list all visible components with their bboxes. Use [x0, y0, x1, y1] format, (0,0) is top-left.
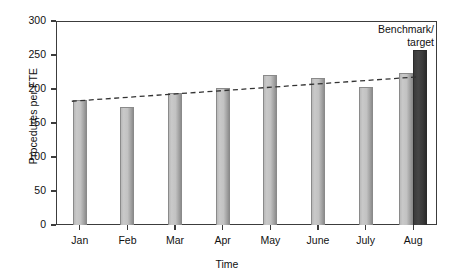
x-axis-tick-mark	[222, 225, 223, 230]
bar-aug	[399, 73, 413, 225]
bar-july	[359, 87, 373, 225]
benchmark-annotation-line1: Benchmark/	[344, 23, 434, 36]
bar-june	[311, 78, 325, 225]
bar-mar	[168, 93, 182, 225]
bar-apr	[216, 88, 230, 225]
bar-may	[263, 75, 277, 225]
y-axis-tick-label: 100	[28, 150, 46, 162]
y-axis-tick-label: 300	[28, 14, 46, 26]
bar-feb	[120, 107, 134, 225]
y-axis-tick-label: 150	[28, 116, 46, 128]
bar-chart: Procedures per FTE 050100150200250300 Ja…	[0, 0, 454, 280]
x-axis-tick-mark	[127, 225, 128, 230]
x-axis-tick-mark	[413, 225, 414, 230]
y-axis-tick-label: 50	[34, 184, 46, 196]
y-axis-tick-mark	[51, 88, 56, 89]
x-axis-tick-label: Aug	[383, 234, 443, 246]
y-axis-tick-mark	[51, 190, 56, 191]
benchmark-annotation-line2: target	[344, 36, 434, 49]
y-axis-tick-mark	[51, 224, 56, 225]
y-axis-tick-label: 0	[40, 218, 46, 230]
y-axis-tick-label: 200	[28, 82, 46, 94]
x-axis-tick-mark	[79, 225, 80, 230]
x-axis-tick-mark	[270, 225, 271, 230]
y-axis-tick-label: 250	[28, 48, 46, 60]
y-axis-tick-mark	[51, 54, 56, 55]
x-axis-tick-mark	[365, 225, 366, 230]
y-axis-tick-mark	[51, 122, 56, 123]
x-axis-tick-mark	[174, 225, 175, 230]
benchmark-annotation: Benchmark/ target	[344, 23, 434, 48]
y-axis-tick-mark	[51, 156, 56, 157]
x-axis-title: Time	[0, 258, 454, 270]
x-axis-tick-mark	[317, 225, 318, 230]
y-axis-tick-mark	[51, 20, 56, 21]
bar-jan	[73, 100, 87, 225]
bar-benchmark-target	[413, 50, 427, 225]
plot-area	[56, 21, 437, 225]
